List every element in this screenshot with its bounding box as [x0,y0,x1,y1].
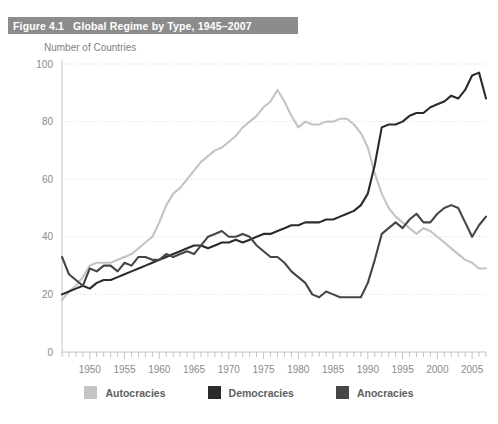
legend-item-democracies[interactable]: Democracies [208,386,294,399]
line-chart-plot: 020406080100 195019551960196519701975198… [0,0,498,424]
x-tick-label: 1975 [252,364,275,375]
legend-label: Autocracies [105,387,165,399]
figure-container: Figure 4.1 Global Regime by Type, 1945–2… [0,0,498,424]
x-axis-tick-labels: 1950195519601965197019751980198519901995… [79,364,484,375]
y-tick-label: 40 [42,231,54,242]
y-tick-label: 20 [42,289,54,300]
x-tick-label: 1990 [357,364,380,375]
series-line-anocracies [62,205,486,297]
x-tick-label: 1955 [113,364,136,375]
legend-swatch-icon [84,386,97,399]
x-tick-label: 2000 [426,364,449,375]
x-tick-label: 2005 [461,364,484,375]
y-tick-label: 60 [42,174,54,185]
legend-item-anocracies[interactable]: Anocracies [336,386,414,399]
x-tick-label: 1965 [183,364,206,375]
x-axis-group [62,60,486,359]
x-tick-label: 1985 [322,364,345,375]
chart-legend: AutocraciesDemocraciesAnocracies [0,386,498,399]
x-tick-label: 1995 [391,364,414,375]
series-line-democracies [62,73,486,295]
legend-label: Democracies [229,387,294,399]
legend-swatch-icon [208,386,221,399]
x-tick-label: 1980 [287,364,310,375]
legend-item-autocracies[interactable]: Autocracies [84,386,165,399]
y-tick-label: 80 [42,116,54,127]
x-tick-label: 1960 [148,364,171,375]
x-tick-label: 1970 [218,364,241,375]
legend-swatch-icon [336,386,349,399]
legend-label: Anocracies [357,387,414,399]
x-tick-label: 1950 [79,364,102,375]
series-lines-group [62,73,486,301]
gridlines-group [62,64,486,294]
y-tick-label: 100 [36,59,53,70]
y-axis-tick-labels: 020406080100 [36,59,53,358]
y-tick-label: 0 [47,347,53,358]
